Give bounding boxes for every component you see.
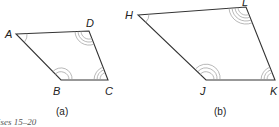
quadrilateral-hlkj bbox=[138, 7, 275, 80]
diagram-canvas: A D C B (a) H L K J (b) ises 15–20 bbox=[0, 0, 279, 127]
vertex-label-h: H bbox=[125, 9, 133, 21]
figure-a: A D C B (a) bbox=[4, 17, 113, 117]
vertex-label-b: B bbox=[53, 85, 60, 97]
vertex-label-a: A bbox=[4, 28, 12, 40]
figure-label-a: (a) bbox=[56, 106, 68, 117]
vertex-label-l: L bbox=[242, 0, 248, 8]
vertex-label-k: K bbox=[270, 85, 278, 97]
vertex-label-c: C bbox=[105, 85, 113, 97]
angle-mark-b bbox=[53, 68, 73, 80]
exercise-caption: ises 15–20 bbox=[0, 117, 37, 127]
figure-b: H L K J (b) bbox=[125, 0, 278, 117]
angle-mark-l bbox=[229, 8, 252, 24]
figure-label-b: (b) bbox=[214, 106, 226, 117]
vertex-label-j: J bbox=[199, 85, 206, 97]
angle-mark-a bbox=[25, 34, 28, 43]
quadrilateral-abcd bbox=[16, 31, 108, 80]
angle-mark-h bbox=[146, 14, 150, 22]
angle-mark-j bbox=[196, 64, 220, 80]
vertex-label-d: D bbox=[86, 17, 94, 29]
